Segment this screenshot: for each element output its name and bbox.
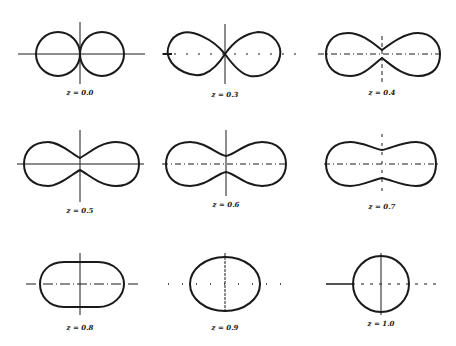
panel-label: z = 0.8 bbox=[67, 323, 94, 332]
panel-z-0-5: z = 0.5 bbox=[0, 110, 152, 225]
panel-z-0-3: z = 0.3 bbox=[152, 0, 304, 115]
panel-z-0-7: z = 0.7 bbox=[304, 110, 456, 225]
panel-z-0-6: z = 0.6 bbox=[152, 110, 304, 225]
circle-diagram bbox=[304, 231, 456, 346]
panel-label: z = 0.0 bbox=[67, 88, 94, 97]
panel-label: z = 0.4 bbox=[369, 88, 396, 97]
panel-label: z = 1.0 bbox=[368, 319, 395, 328]
panel-z-0-0: z = 0.0 bbox=[0, 0, 152, 115]
panel-label: z = 0.7 bbox=[369, 202, 396, 211]
panel-label: z = 0.9 bbox=[212, 323, 239, 332]
panel-label: z = 0.6 bbox=[213, 200, 240, 209]
two-circle-lobe-diagram bbox=[0, 0, 152, 115]
panel-z-1-0: z = 1.0 bbox=[304, 231, 456, 346]
panel-z-0-9: z = 0.9 bbox=[152, 231, 304, 346]
panel-z-0-8: z = 0.8 bbox=[0, 231, 152, 346]
peanut-lobe-diagram bbox=[304, 0, 456, 115]
panel-z-0-4: z = 0.4 bbox=[304, 0, 456, 115]
panel-label: z = 0.3 bbox=[212, 90, 239, 99]
panel-label: z = 0.5 bbox=[67, 206, 94, 215]
